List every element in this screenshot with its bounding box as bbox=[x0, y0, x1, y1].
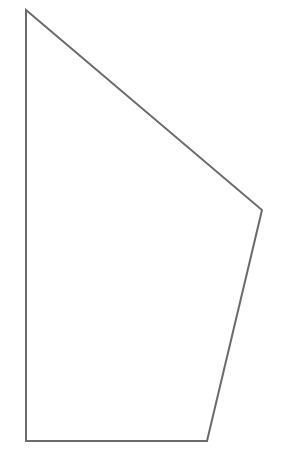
diagram-canvas bbox=[0, 0, 290, 454]
quadrilateral-shape bbox=[26, 10, 262, 441]
